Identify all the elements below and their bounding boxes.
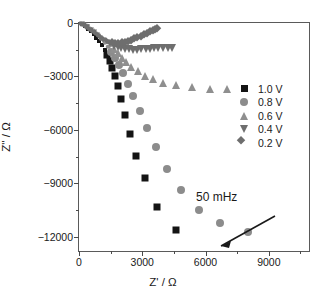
y-tick-label: −3000 <box>44 70 74 82</box>
data-point <box>117 95 124 102</box>
x-tick-minor <box>111 251 112 254</box>
data-point <box>121 111 128 118</box>
legend-item-label: 1.0 V <box>258 84 283 95</box>
x-tick-label: 3000 <box>131 256 154 268</box>
legend-item-label: 0.8 V <box>258 97 283 108</box>
legend-item-label: 0.6 V <box>258 111 283 122</box>
y-tick <box>74 237 79 238</box>
x-tick-label: 6000 <box>194 256 217 268</box>
x-tick-minor <box>237 251 238 254</box>
x-tick-minor <box>300 251 301 254</box>
legend-item-0-4-v: 0.4 V <box>236 123 283 137</box>
data-point <box>177 186 185 194</box>
data-point <box>159 79 167 87</box>
legend-item-0-6-v: 0.6 V <box>236 109 283 123</box>
legend-item-1-0-v: 1.0 V <box>236 82 283 96</box>
annotation-label: 50 mHz <box>196 190 237 204</box>
data-point <box>111 73 118 80</box>
legend-marker-icon <box>236 125 252 133</box>
data-point <box>172 81 180 89</box>
legend-marker-icon <box>236 85 252 92</box>
data-point <box>173 226 180 233</box>
legend: 1.0 V0.8 V0.6 V0.4 V0.2 V <box>236 82 283 150</box>
legend-marker-icon <box>236 98 252 106</box>
x-tick-minor <box>174 251 175 254</box>
data-point <box>149 75 157 83</box>
data-point <box>216 219 224 227</box>
data-point <box>136 107 144 115</box>
data-point <box>124 80 132 88</box>
legend-item-label: 0.4 V <box>258 124 283 135</box>
data-point <box>154 203 161 210</box>
y-tick-label: 0 <box>67 17 73 29</box>
legend-item-0-8-v: 0.8 V <box>236 96 283 110</box>
data-point <box>141 175 148 182</box>
y-tick-minor <box>76 50 79 51</box>
y-tick-minor <box>76 103 79 104</box>
data-point <box>244 228 252 236</box>
data-point <box>129 92 137 100</box>
legend-item-0-2-v: 0.2 V <box>236 136 283 150</box>
data-point <box>188 83 196 91</box>
data-point <box>127 130 134 137</box>
x-axis-title: Z' / Ω <box>0 276 326 288</box>
y-tick <box>74 183 79 184</box>
x-tick-label: 0 <box>76 256 82 268</box>
y-tick-label: −6000 <box>44 124 74 136</box>
data-point <box>152 143 160 151</box>
data-point <box>223 85 231 93</box>
data-point <box>153 24 161 32</box>
data-point <box>143 124 151 132</box>
data-point <box>141 72 149 80</box>
legend-item-label: 0.2 V <box>258 138 283 149</box>
y-tick <box>74 76 79 77</box>
y-tick-minor <box>76 210 79 211</box>
data-point <box>119 69 127 77</box>
data-point <box>114 83 121 90</box>
y-tick-minor <box>76 157 79 158</box>
data-point <box>163 165 171 173</box>
data-point <box>195 206 203 214</box>
data-point <box>168 44 176 52</box>
y-tick <box>74 130 79 131</box>
data-point <box>206 85 214 93</box>
y-axis-title: Z'' / Ω <box>0 122 12 152</box>
legend-marker-icon <box>236 112 252 120</box>
nyquist-plot-figure: 0−3000−6000−9000−12000 0300060009000 50 … <box>0 0 326 302</box>
legend-marker-icon <box>236 140 252 146</box>
data-point <box>132 152 139 159</box>
y-tick-label: −12000 <box>38 231 73 243</box>
y-tick-label: −9000 <box>44 177 74 189</box>
x-tick-label: 9000 <box>257 256 280 268</box>
